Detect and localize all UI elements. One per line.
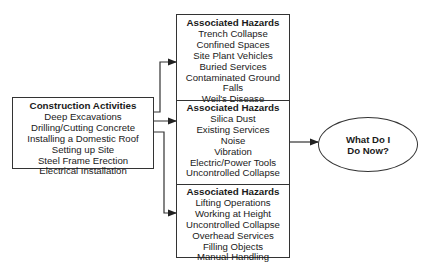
outcome-line-2: Do Now? xyxy=(346,145,390,156)
divider xyxy=(177,184,289,185)
hazard-item: Uncontrolled Collapse xyxy=(177,168,289,179)
hazards-box-roof: Associated Hazards Lifting Operations Wo… xyxy=(177,187,289,263)
hazard-item: Buried Services xyxy=(177,62,289,73)
hazard-item: Noise xyxy=(177,136,289,147)
outcome-line-1: What Do I xyxy=(346,134,390,145)
hazard-item: Manual Handling xyxy=(177,252,289,263)
activity-item: Setting up Site xyxy=(13,145,153,156)
hazard-item: Site Plant Vehicles xyxy=(177,51,289,62)
activity-item: Installing a Domestic Roof xyxy=(13,134,153,145)
construction-activities-box: Construction Activities Deep Excavations… xyxy=(12,97,154,169)
divider xyxy=(177,100,289,101)
hazards-column: Associated Hazards Trench Collapse Confi… xyxy=(176,14,290,258)
hazard-item: Vibration xyxy=(177,147,289,158)
hazards-box-excavations: Associated Hazards Trench Collapse Confi… xyxy=(177,18,289,105)
hazard-item: Uncontrolled Collapse xyxy=(177,220,289,231)
outcome-ellipse: What Do I Do Now? xyxy=(318,117,418,172)
activity-item: Electrical Installation xyxy=(13,166,153,177)
hazards-box-drilling: Associated Hazards Silica Dust Existing … xyxy=(177,103,289,179)
hazard-item: Overhead Services xyxy=(177,231,289,242)
